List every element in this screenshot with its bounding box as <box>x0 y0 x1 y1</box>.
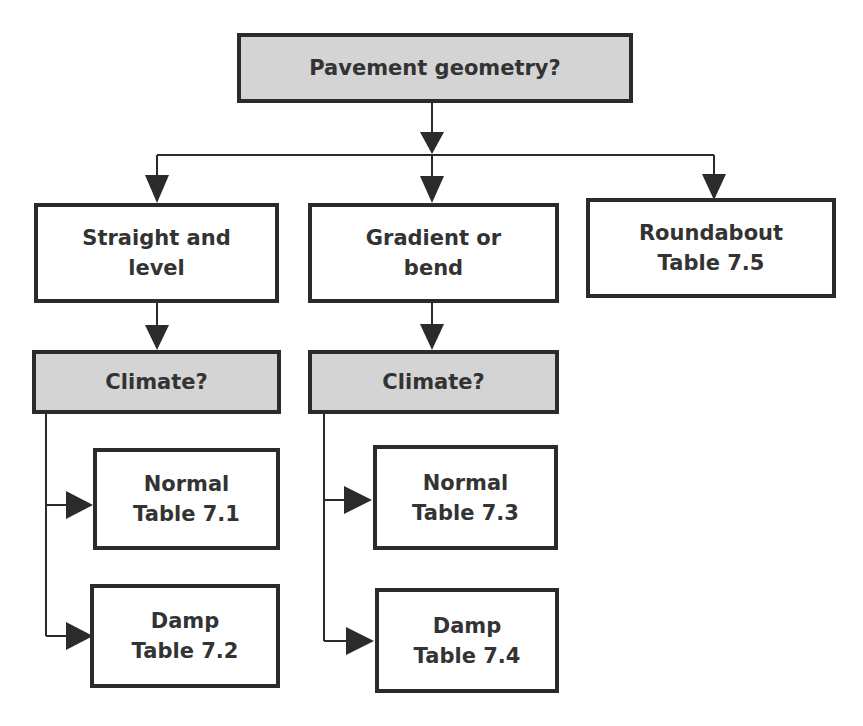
branch-straight-level: Straight and level <box>34 203 279 303</box>
option-normal-7-3: Normal Table 7.3 <box>373 445 558 550</box>
arrow-right-icon <box>344 486 372 514</box>
option-label-line: Table 7.1 <box>133 499 240 529</box>
arrow-down-icon <box>145 325 169 350</box>
arrow-down-icon <box>420 132 444 154</box>
arrow-down-icon <box>420 176 444 203</box>
root-question-label: Pavement geometry? <box>309 53 560 83</box>
option-damp-7-2: Damp Table 7.2 <box>90 584 280 688</box>
option-label-line: Table 7.2 <box>132 636 239 666</box>
option-label-line: Normal <box>133 469 240 499</box>
branch-label-line: Table 7.5 <box>639 248 783 278</box>
arrow-right-icon <box>66 491 93 519</box>
climate-label: Climate? <box>382 367 484 397</box>
option-label-line: Table 7.3 <box>412 498 519 528</box>
arrow-right-icon <box>346 627 374 655</box>
arrow-right-icon <box>66 622 93 650</box>
branch-gradient-bend: Gradient or bend <box>308 203 559 303</box>
branch-label-line: bend <box>366 253 501 283</box>
option-label-line: Damp <box>132 606 239 636</box>
branch-label-line: level <box>82 253 230 283</box>
option-normal-7-1: Normal Table 7.1 <box>93 448 280 550</box>
option-label-line: Normal <box>412 468 519 498</box>
option-label-line: Damp <box>414 611 521 641</box>
root-question-box: Pavement geometry? <box>237 33 633 103</box>
branch-label-line: Straight and <box>82 223 230 253</box>
branch-label-line: Gradient or <box>366 223 501 253</box>
branch-label-line: Roundabout <box>639 218 783 248</box>
arrow-down-icon <box>420 324 444 350</box>
arrow-down-icon <box>145 175 169 203</box>
branch-roundabout: Roundabout Table 7.5 <box>586 198 836 298</box>
arrow-down-icon <box>702 174 726 200</box>
option-label-line: Table 7.4 <box>414 641 521 671</box>
climate-label: Climate? <box>105 367 207 397</box>
climate-question-middle: Climate? <box>308 350 559 414</box>
climate-question-left: Climate? <box>32 350 281 414</box>
option-damp-7-4: Damp Table 7.4 <box>375 588 559 693</box>
